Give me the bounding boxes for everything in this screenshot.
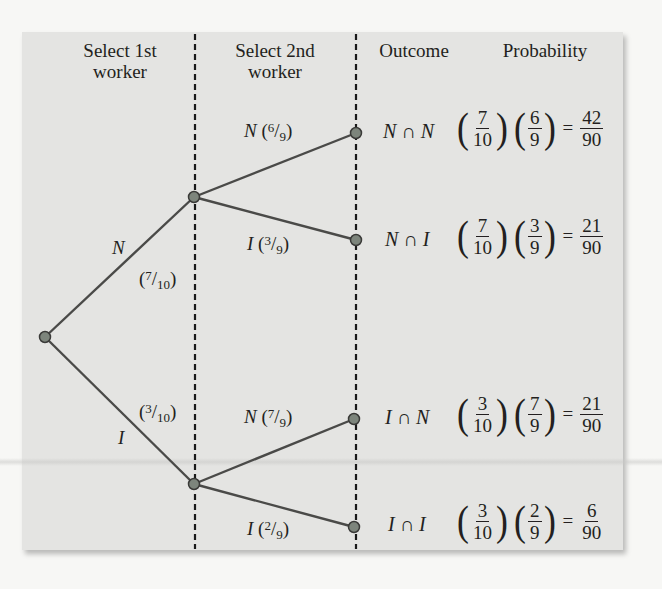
paren-close: ) (544, 107, 556, 149)
fraction-2: 69 (528, 108, 542, 149)
event: N (244, 406, 257, 427)
paren-close: ) (496, 107, 508, 149)
branch-N-N (194, 133, 356, 197)
result-fraction: 2190 (580, 394, 603, 435)
paren-close: ) (544, 215, 556, 257)
paren-close: ) (544, 393, 556, 435)
prob-num: 7 (268, 406, 275, 421)
paren-close: ) (170, 401, 176, 422)
paren-close: ) (286, 120, 292, 141)
numerator: 3 (476, 501, 490, 522)
paren-open: ( (514, 393, 526, 435)
fraction-2: 29 (528, 501, 542, 542)
slash: / (274, 120, 279, 141)
header-line: worker (60, 61, 180, 82)
fraction-1: 310 (471, 394, 494, 435)
denominator: 10 (471, 522, 494, 542)
denominator: 9 (528, 237, 542, 257)
node-I (189, 479, 200, 490)
probability-II: ( 310 ) ( 29 ) = 690 (456, 500, 604, 542)
label-second-IN: N (7/9) (244, 406, 292, 428)
prob-num: 7 (145, 268, 152, 283)
paren-close: ) (496, 215, 508, 257)
outcome-II: I ∩ I (388, 513, 426, 536)
header-line: worker (215, 61, 335, 82)
denominator: 10 (471, 415, 494, 435)
numerator: 21 (580, 394, 603, 415)
fraction-2: 39 (528, 216, 542, 257)
result-fraction: 690 (580, 501, 603, 542)
numerator: 6 (585, 501, 599, 522)
fraction-1: 710 (471, 108, 494, 149)
node-N (189, 192, 200, 203)
prob-num: 6 (268, 120, 275, 135)
paren-close: ) (544, 500, 556, 542)
paren-close: ) (496, 393, 508, 435)
label-first-N-prob: (7/10) (139, 268, 176, 290)
numerator: 7 (476, 108, 490, 129)
event: N (244, 120, 257, 141)
outcome-NI: N ∩ I (385, 228, 429, 251)
label-second-NI: I (3/9) (247, 233, 289, 255)
paren-close: ) (170, 268, 176, 289)
equals-sign: = (563, 225, 574, 247)
node-NN (351, 128, 362, 139)
probability-NI: ( 710 ) ( 39 ) = 2190 (456, 215, 604, 257)
numerator: 2 (528, 501, 542, 522)
denominator: 90 (580, 237, 603, 257)
paren-open: ( (261, 120, 267, 141)
prob-den: 9 (276, 242, 283, 257)
probability-NN: ( 710 ) ( 69 ) = 4290 (456, 107, 604, 149)
branch-I-N (194, 419, 354, 484)
outcome-IN: I ∩ N (385, 406, 429, 429)
header-line: Select 2nd (215, 40, 335, 61)
denominator: 90 (580, 129, 603, 149)
paren-open: ( (261, 406, 267, 427)
branch-root-N (45, 197, 194, 337)
denominator: 90 (580, 522, 603, 542)
node-IN (349, 414, 360, 425)
fraction-1: 310 (471, 501, 494, 542)
equals-sign: = (563, 403, 574, 425)
paren-open: ( (457, 215, 469, 257)
numerator: 21 (580, 216, 603, 237)
prob-den: 9 (276, 527, 283, 542)
label-first-I-prob: (3/10) (139, 401, 176, 423)
denominator: 9 (528, 415, 542, 435)
prob-den: 10 (157, 277, 170, 292)
prob-den: 9 (280, 129, 287, 144)
node-II (349, 522, 360, 533)
label-first-I: I (118, 427, 124, 449)
paren-open: ( (514, 500, 526, 542)
header-select-1st: Select 1st worker (60, 40, 180, 82)
header-select-2nd: Select 2nd worker (215, 40, 335, 82)
header-outcome: Outcome (366, 40, 462, 61)
outcome-NN: N ∩ N (383, 120, 434, 143)
paren-close: ) (283, 518, 289, 539)
equals-sign: = (563, 117, 574, 139)
denominator: 9 (528, 522, 542, 542)
numerator: 3 (528, 216, 542, 237)
prob-num: 3 (264, 233, 271, 248)
prob-den: 10 (157, 410, 170, 425)
event: I (247, 518, 253, 539)
node-root (40, 332, 51, 343)
equals-sign: = (563, 510, 574, 532)
paren-open: ( (457, 500, 469, 542)
prob-num: 3 (145, 401, 152, 416)
fraction-1: 710 (471, 216, 494, 257)
fraction-2: 79 (528, 394, 542, 435)
label-second-II: I (2/9) (247, 518, 289, 540)
header-probability: Probability (480, 40, 610, 61)
label-second-NN: N (6/9) (244, 120, 292, 142)
paren-open: ( (514, 107, 526, 149)
paren-close: ) (283, 233, 289, 254)
denominator: 10 (471, 237, 494, 257)
paren-close: ) (496, 500, 508, 542)
result-fraction: 4290 (580, 108, 603, 149)
result-fraction: 2190 (580, 216, 603, 257)
event: I (247, 233, 253, 254)
paren-open: ( (457, 393, 469, 435)
prob-den: 9 (280, 415, 287, 430)
paren-open: ( (514, 215, 526, 257)
